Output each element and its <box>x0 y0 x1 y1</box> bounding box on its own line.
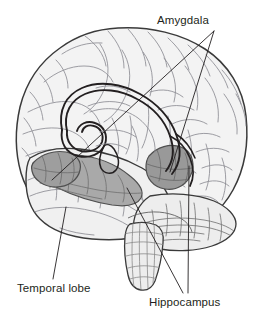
label-temporal-lobe: Temporal lobe <box>17 282 91 294</box>
label-amygdala: Amygdala <box>157 14 209 26</box>
label-hippocampus: Hippocampus <box>149 296 220 308</box>
brain-illustration <box>0 0 269 321</box>
brain-anatomy-diagram: Amygdala Temporal lobe Hippocampus <box>0 0 269 321</box>
